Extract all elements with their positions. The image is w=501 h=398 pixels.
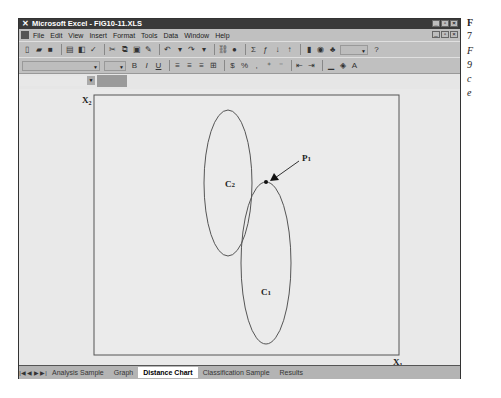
help-icon[interactable]: ? (372, 45, 381, 54)
save-icon[interactable]: ■ (46, 45, 55, 54)
page-edge-text: 7 (467, 30, 472, 41)
tab-results[interactable]: Results (275, 369, 308, 376)
name-box[interactable] (19, 76, 89, 86)
doc-close-button[interactable]: × (450, 31, 458, 38)
toolbar-separator (169, 60, 170, 71)
borders-icon[interactable]: ▁ (326, 61, 335, 70)
center-icon[interactable]: ≡ (185, 61, 194, 70)
y-axis-label: X2 (82, 95, 92, 106)
minimize-button[interactable]: _ (432, 20, 440, 27)
currency-icon[interactable]: $ (228, 61, 237, 70)
tab-classification-sample[interactable]: Classification Sample (198, 369, 275, 376)
increase-decimal-icon[interactable]: ⁺ (264, 61, 273, 70)
web-toolbar-icon[interactable]: ● (230, 45, 239, 54)
last-sheet-button[interactable]: ▶| (40, 369, 47, 376)
tab-graph[interactable]: Graph (109, 369, 138, 376)
bold-icon[interactable]: B (130, 61, 139, 70)
align-right-icon[interactable]: ≡ (197, 61, 206, 70)
percent-icon[interactable]: % (240, 61, 249, 70)
x-axis-label: X1 (393, 357, 403, 365)
first-sheet-button[interactable]: |◀ (19, 369, 26, 376)
font-color-icon[interactable]: A (350, 61, 359, 70)
toolbar-separator (322, 60, 323, 71)
formula-input[interactable] (97, 75, 127, 87)
sort-ascending-icon[interactable]: ↓ (273, 45, 282, 54)
toolbar-separator (61, 44, 62, 55)
menu-view[interactable]: View (68, 32, 83, 39)
sheet-tabs-bar: |◀ ◀ ▶ ▶| Analysis Sample Graph Distance… (19, 365, 460, 379)
spelling-icon[interactable]: ✓ (89, 45, 98, 54)
distance-chart: X2 X1 C2 C1 P1 (19, 89, 460, 365)
menu-help[interactable]: Help (215, 32, 229, 39)
cluster-c2-label: C2 (225, 179, 236, 189)
title-bar: ✕Microsoft Excel - FIG10-11.XLS _ ▫ × (19, 19, 460, 29)
menu-window[interactable]: Window (184, 32, 209, 39)
menu-format[interactable]: Format (113, 32, 135, 39)
doc-restore-button[interactable]: ▫ (441, 31, 449, 38)
font-combo[interactable]: ▼ (22, 61, 100, 71)
point-p1 (264, 180, 268, 184)
cut-icon[interactable]: ✂ (108, 45, 117, 54)
prev-sheet-button[interactable]: ◀ (26, 369, 33, 376)
menu-tools[interactable]: Tools (141, 32, 157, 39)
toolbar-separator (214, 44, 215, 55)
font-size-combo[interactable]: ▼ (104, 61, 126, 71)
decrease-indent-icon[interactable]: ⇤ (295, 61, 304, 70)
toolbar-separator (291, 60, 292, 71)
close-button[interactable]: × (450, 20, 458, 27)
page-edge-text: F (467, 45, 473, 56)
doc-minimize-button[interactable]: _ (432, 31, 440, 38)
open-icon[interactable]: ▰ (34, 45, 43, 54)
cluster-c1-label: C1 (261, 287, 272, 297)
redo-icon[interactable]: ↷ (187, 45, 196, 54)
align-left-icon[interactable]: ≡ (173, 61, 182, 70)
merge-center-icon[interactable]: ⊞ (209, 61, 218, 70)
restore-button[interactable]: ▫ (441, 20, 449, 27)
menu-data[interactable]: Data (163, 32, 178, 39)
menu-file[interactable]: File (33, 32, 44, 39)
chart-sheet: X2 X1 C2 C1 P1 (19, 89, 460, 365)
drawing-icon[interactable]: ♣ (328, 45, 337, 54)
print-preview-icon[interactable]: ◧ (77, 45, 86, 54)
italic-icon[interactable]: I (142, 61, 151, 70)
increase-indent-icon[interactable]: ⇥ (307, 61, 316, 70)
print-icon[interactable]: ▤ (65, 45, 74, 54)
toolbar-separator (224, 60, 225, 71)
formula-bar: ▼ (19, 73, 460, 90)
undo-icon[interactable]: ↶ (163, 45, 172, 54)
tab-analysis-sample[interactable]: Analysis Sample (47, 369, 109, 376)
underline-icon[interactable]: U (154, 61, 163, 70)
toolbar-separator (245, 44, 246, 55)
new-icon[interactable]: ▯ (22, 45, 31, 54)
comma-icon[interactable]: , (252, 61, 261, 70)
page-edge-text: e (467, 87, 471, 98)
copy-icon[interactable]: ⧉ (120, 45, 129, 54)
excel-window: ✕Microsoft Excel - FIG10-11.XLS _ ▫ × Fi… (18, 18, 461, 379)
zoom-combo[interactable]: ▼ (340, 45, 368, 55)
sort-descending-icon[interactable]: ↑ (285, 45, 294, 54)
toolbar-separator (300, 44, 301, 55)
format-painter-icon[interactable]: ✎ (144, 45, 153, 54)
paste-icon[interactable]: ▣ (132, 45, 141, 54)
toolbar-separator (159, 44, 160, 55)
next-sheet-button[interactable]: ▶ (33, 369, 40, 376)
toolbar-separator (104, 44, 105, 55)
tab-distance-chart[interactable]: Distance Chart (138, 367, 197, 378)
undo-dropdown-icon[interactable]: ▾ (175, 45, 184, 54)
function-icon[interactable]: ƒ (261, 45, 270, 54)
map-icon[interactable]: ◉ (316, 45, 325, 54)
workbook-icon[interactable] (21, 31, 29, 39)
standard-toolbar: ▯ ▰ ■ ▤ ◧ ✓ ✂ ⧉ ▣ ✎ ↶ ▾ ↷ ▾ ⛓ ● Σ ƒ ↓ ↑ … (19, 41, 460, 57)
window-title: Microsoft Excel - FIG10-11.XLS (32, 19, 142, 28)
hyperlink-icon[interactable]: ⛓ (218, 45, 227, 54)
redo-dropdown-icon[interactable]: ▾ (199, 45, 208, 54)
name-box-dropdown[interactable]: ▼ (87, 76, 95, 85)
menu-edit[interactable]: Edit (50, 32, 62, 39)
decrease-decimal-icon[interactable]: ⁻ (276, 61, 285, 70)
chart-wizard-icon[interactable]: ▮ (304, 45, 313, 54)
page-edge-text: F (467, 17, 473, 28)
autosum-icon[interactable]: Σ (249, 45, 258, 54)
menu-bar: File Edit View Insert Format Tools Data … (19, 29, 460, 41)
fill-color-icon[interactable]: ◈ (338, 61, 347, 70)
menu-insert[interactable]: Insert (89, 32, 107, 39)
